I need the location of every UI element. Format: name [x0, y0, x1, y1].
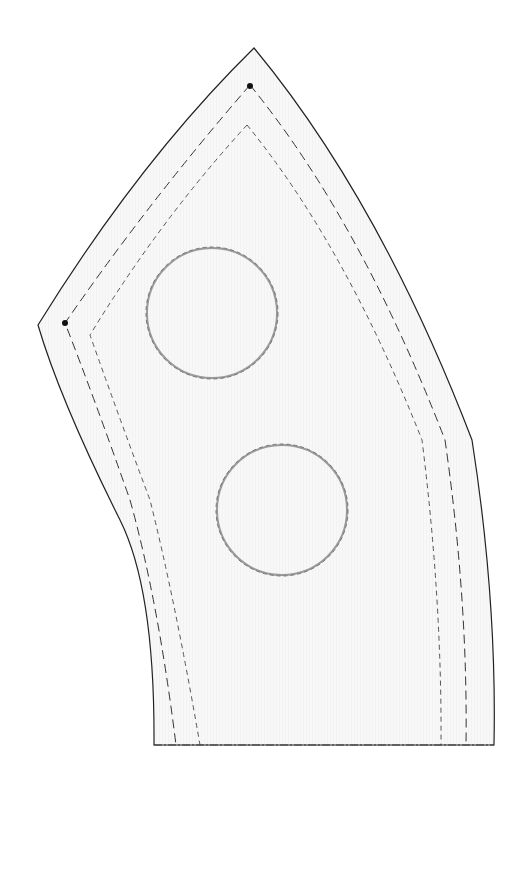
corner-dot-top [247, 83, 253, 89]
cut-outline [38, 48, 494, 745]
corner-dot-left [62, 320, 68, 326]
pattern-diagram [0, 0, 509, 879]
